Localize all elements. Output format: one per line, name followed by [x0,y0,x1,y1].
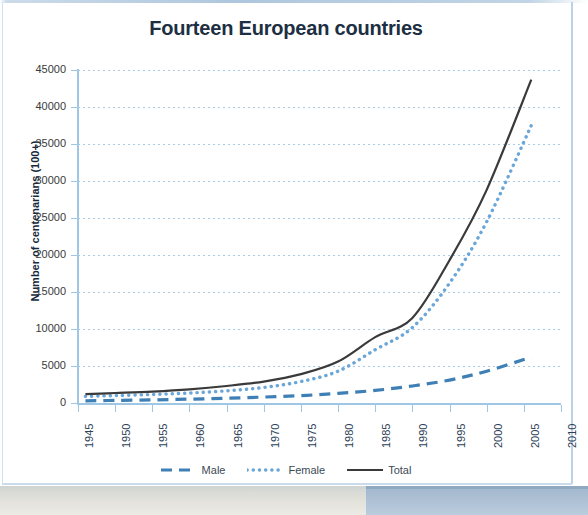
x-axis-tick-label: 1965 [232,424,244,448]
y-axis-tick-label: 15000 [4,285,66,297]
legend-item-female[interactable]: Female [247,464,325,476]
gridline [78,181,561,182]
x-axis-tick [115,405,116,412]
gridline [78,292,561,293]
gridline [78,329,561,330]
scanned-page: Fourteen European countries Number of ce… [0,0,588,515]
x-axis-tick-label: 1995 [455,424,467,448]
strip-left-panel [0,486,366,515]
gridline [78,107,561,108]
y-axis-tick [71,292,78,293]
x-axis-tick [375,405,376,412]
x-axis-tick [264,405,265,412]
legend-label-male: Male [202,464,226,476]
legend-swatch-total-icon [347,465,383,475]
x-axis-tick-label: 2005 [529,424,541,448]
y-axis-tick-label: 40000 [4,100,66,112]
y-axis-tick-label: 20000 [4,248,66,260]
gridline [78,218,561,219]
x-axis-tick [412,405,413,412]
legend-swatch-male-icon [161,465,197,475]
y-axis-tick-label: 0 [4,396,66,408]
y-axis-tick [71,366,78,367]
x-axis-tick [450,405,451,412]
x-axis-tick [524,405,525,412]
y-axis-tick-label: 25000 [4,211,66,223]
legend-swatch-female-icon [247,465,283,475]
x-axis-tick-label: 1945 [83,424,95,448]
y-axis-tick-label: 45000 [4,63,66,75]
x-axis-tick-label: 1975 [306,424,318,448]
y-axis-tick-label: 30000 [4,174,66,186]
page-bottom-strip [0,486,588,515]
page-bottom-border [2,483,572,485]
x-axis-tick-label: 1990 [417,424,429,448]
x-axis-tick-label: 1985 [380,424,392,448]
x-axis-tick [189,405,190,412]
chart-legend: MaleFemaleTotal [0,464,572,476]
x-axis-tick-label: 1970 [269,424,281,448]
gridline [78,144,561,145]
y-axis-tick [71,181,78,182]
legend-label-female: Female [288,464,325,476]
chart-title: Fourteen European countries [0,17,572,40]
y-axis-tick [71,144,78,145]
page-left-border [2,2,3,484]
x-axis-tick-label: 2010 [566,424,578,448]
page-top-border [0,0,588,3]
x-axis-tick [338,405,339,412]
strip-right-edge [366,486,588,489]
x-axis-tick [301,405,302,412]
x-axis-tick-label: 1950 [120,424,132,448]
y-axis-tick [71,255,78,256]
x-axis-tick-label: 1955 [157,424,169,448]
y-axis-tick [71,403,78,404]
x-axis-tick [487,405,488,412]
gridline [78,366,561,367]
x-axis-line [78,403,561,405]
legend-item-male[interactable]: Male [161,464,226,476]
x-axis-tick [227,405,228,412]
y-axis-tick [71,70,78,71]
y-axis-tick-label: 5000 [4,359,66,371]
strip-right-panel [366,486,588,515]
legend-item-total[interactable]: Total [347,464,411,476]
x-axis-tick-label: 1980 [343,424,355,448]
y-axis-tick [71,329,78,330]
x-axis-tick [78,405,79,412]
x-axis-tick [561,405,562,412]
gridline [78,255,561,256]
plot-area [78,70,561,403]
x-axis-tick-label: 2000 [492,424,504,448]
y-axis-tick [71,107,78,108]
page-right-border [571,2,573,484]
y-axis-tick-label: 10000 [4,322,66,334]
legend-label-total: Total [388,464,411,476]
x-axis-tick [152,405,153,412]
y-axis-tick [71,218,78,219]
gridline [78,70,561,71]
x-axis-tick-label: 1960 [194,424,206,448]
y-axis-tick-label: 35000 [4,137,66,149]
